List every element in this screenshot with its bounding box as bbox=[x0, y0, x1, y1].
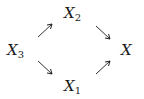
arrow-x3-to-x2-icon bbox=[38, 24, 52, 37]
arrow-x1-to-x-icon bbox=[96, 61, 110, 74]
arrows-layer bbox=[0, 0, 144, 99]
arrow-x2-to-x-icon bbox=[96, 26, 110, 39]
arrow-x3-to-x1-icon bbox=[38, 61, 52, 74]
